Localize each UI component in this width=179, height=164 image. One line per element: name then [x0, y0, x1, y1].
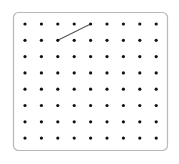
- segments-layer: [58, 24, 91, 40]
- grid-dot: [155, 39, 158, 42]
- grid-dot: [89, 55, 92, 58]
- grid-dot: [23, 88, 26, 91]
- grid-dot: [138, 71, 141, 74]
- grid-dot: [138, 104, 141, 107]
- grid-dot: [89, 120, 92, 123]
- grid-dot: [56, 71, 59, 74]
- grid-dot: [73, 104, 76, 107]
- grid-dot: [56, 120, 59, 123]
- grid-dot: [155, 104, 158, 107]
- grid-dot: [56, 22, 59, 25]
- grid-dot: [73, 137, 76, 140]
- grid-dot: [73, 88, 76, 91]
- grid-dot: [56, 137, 59, 140]
- grid-dot: [105, 104, 108, 107]
- grid-dot: [40, 22, 43, 25]
- grid-dot: [122, 22, 125, 25]
- grid-dot: [23, 22, 26, 25]
- grid-dot: [73, 39, 76, 42]
- grid-dot: [23, 55, 26, 58]
- grid-dot: [40, 71, 43, 74]
- grid-dot: [40, 39, 43, 42]
- grid-dot: [138, 137, 141, 140]
- dot-grid: [23, 22, 157, 139]
- grid-dot: [89, 71, 92, 74]
- grid-dot: [73, 55, 76, 58]
- board-frame: [14, 13, 168, 151]
- grid-dot: [138, 120, 141, 123]
- grid-dot: [40, 55, 43, 58]
- grid-dot: [89, 137, 92, 140]
- grid-dot: [89, 39, 92, 42]
- grid-dot: [155, 88, 158, 91]
- line-segment: [58, 24, 91, 40]
- grid-dot: [122, 55, 125, 58]
- grid-dot: [105, 88, 108, 91]
- grid-dot: [155, 137, 158, 140]
- grid-dot: [56, 88, 59, 91]
- grid-dot: [105, 137, 108, 140]
- grid-dot: [155, 22, 158, 25]
- grid-dot: [122, 39, 125, 42]
- grid-dot: [122, 88, 125, 91]
- grid-dot: [105, 55, 108, 58]
- grid-dot: [138, 88, 141, 91]
- grid-dot: [56, 104, 59, 107]
- grid-dot: [155, 55, 158, 58]
- grid-dot: [138, 22, 141, 25]
- grid-dot: [56, 55, 59, 58]
- grid-dot: [40, 104, 43, 107]
- grid-dot: [23, 39, 26, 42]
- grid-dot: [122, 71, 125, 74]
- grid-dot: [155, 71, 158, 74]
- grid-dot: [40, 88, 43, 91]
- grid-dot: [105, 120, 108, 123]
- grid-dot: [138, 55, 141, 58]
- geoboard: [0, 0, 179, 164]
- grid-dot: [122, 120, 125, 123]
- grid-dot: [73, 71, 76, 74]
- grid-dot: [155, 120, 158, 123]
- grid-dot: [73, 22, 76, 25]
- grid-dot: [89, 88, 92, 91]
- grid-dot: [122, 137, 125, 140]
- grid-dot: [105, 22, 108, 25]
- grid-dot: [138, 39, 141, 42]
- grid-dot: [40, 120, 43, 123]
- grid-dot: [23, 71, 26, 74]
- grid-dot: [122, 104, 125, 107]
- grid-dot: [73, 120, 76, 123]
- grid-dot: [105, 39, 108, 42]
- grid-dot: [89, 22, 92, 25]
- grid-dot: [40, 137, 43, 140]
- grid-dot: [56, 39, 59, 42]
- grid-dot: [23, 137, 26, 140]
- grid-dot: [23, 104, 26, 107]
- grid-dot: [89, 104, 92, 107]
- grid-dot: [23, 120, 26, 123]
- grid-dot: [105, 71, 108, 74]
